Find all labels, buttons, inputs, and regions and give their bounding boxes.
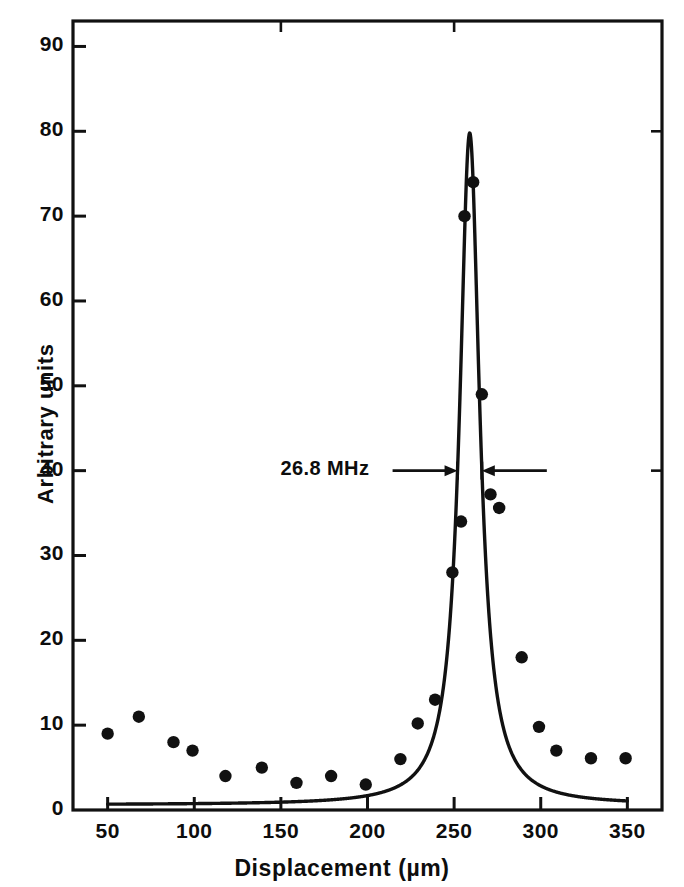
data-point	[493, 502, 505, 514]
x-tick-label: 50	[68, 819, 148, 843]
top-axis-ticks	[281, 21, 454, 32]
y-tick-label: 20	[0, 626, 64, 650]
y-axis-ticks	[73, 46, 86, 725]
data-point	[446, 566, 458, 578]
data-point	[325, 770, 337, 782]
y-tick-label: 90	[0, 32, 64, 56]
x-tick-label: 350	[587, 819, 667, 843]
data-point	[133, 710, 145, 722]
data-point	[585, 752, 597, 764]
data-point	[476, 388, 488, 400]
y-tick-label: 80	[0, 117, 64, 141]
y-tick-label: 30	[0, 541, 64, 565]
data-point	[360, 778, 372, 790]
axes-frame	[73, 21, 662, 810]
annotation-right-arrowhead	[482, 465, 495, 476]
data-point-group	[101, 176, 631, 791]
data-point	[458, 210, 470, 222]
data-point	[455, 515, 467, 527]
x-tick-label: 150	[241, 819, 321, 843]
data-point	[429, 694, 441, 706]
y-tick-label: 70	[0, 202, 64, 226]
data-point	[186, 744, 198, 756]
data-point	[167, 736, 179, 748]
annotation-left-arrowhead	[445, 465, 458, 476]
x-axis-label: Displacement (µm)	[0, 855, 684, 882]
y-axis-label: Arbitrary units	[33, 343, 59, 504]
lorentzian-fit-curve	[108, 133, 628, 804]
data-point	[550, 744, 562, 756]
right-axis-ticks	[651, 131, 662, 470]
y-tick-label: 10	[0, 711, 64, 735]
chart-figure: 26.8 MHz01020304050607080905010015020025…	[0, 0, 684, 887]
data-point	[484, 488, 496, 500]
x-tick-label: 200	[328, 819, 408, 843]
data-point	[412, 717, 424, 729]
y-tick-label: 60	[0, 287, 64, 311]
x-tick-label: 250	[414, 819, 494, 843]
data-point	[256, 761, 268, 773]
data-point	[290, 777, 302, 789]
data-point	[219, 770, 231, 782]
linewidth-annotation	[393, 462, 547, 480]
x-tick-label: 100	[154, 819, 234, 843]
data-point	[101, 727, 113, 739]
data-point	[515, 651, 527, 663]
x-tick-label: 300	[501, 819, 581, 843]
plot-canvas	[0, 0, 684, 887]
data-point	[394, 753, 406, 765]
y-tick-label: 0	[0, 796, 64, 820]
data-point	[619, 752, 631, 764]
data-point	[533, 721, 545, 733]
data-point	[467, 176, 479, 188]
